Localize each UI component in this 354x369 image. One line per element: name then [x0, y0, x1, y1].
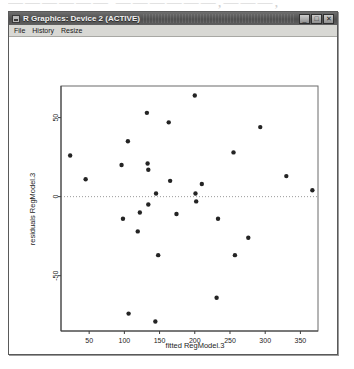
- maximize-icon: □: [312, 15, 321, 23]
- data-point: [200, 182, 204, 186]
- data-point: [174, 212, 178, 216]
- data-point: [145, 161, 149, 165]
- y-axis-title: residuals RegModel.3: [28, 173, 37, 246]
- maximize-button[interactable]: □: [311, 14, 322, 24]
- data-point: [168, 179, 172, 183]
- menubar: File History Resize: [9, 25, 337, 37]
- y-axis: 500-50: [52, 86, 61, 331]
- data-point: [231, 150, 235, 154]
- window-title: R Graphics: Device 2 (ACTIVE): [23, 14, 140, 23]
- data-point: [193, 191, 197, 195]
- data-point: [246, 236, 250, 240]
- menu-file[interactable]: File: [12, 25, 30, 36]
- plot-border: [61, 86, 318, 331]
- x-tick-label: 350: [295, 337, 307, 344]
- data-point: [194, 199, 198, 203]
- plot-frame: [61, 86, 318, 331]
- data-point: [121, 217, 125, 221]
- r-graphics-window: R Graphics: Device 2 (ACTIVE) _ □ ✕ File…: [8, 11, 338, 355]
- window-titlebar[interactable]: R Graphics: Device 2 (ACTIVE) _ □ ✕: [9, 12, 337, 25]
- data-point: [193, 93, 197, 97]
- x-tick-label: 250: [224, 337, 236, 344]
- x-axis-title: fitted RegModel.3: [166, 341, 225, 350]
- data-point: [146, 168, 150, 172]
- data-point: [146, 202, 150, 206]
- data-point: [284, 174, 288, 178]
- minimize-icon: _: [300, 15, 309, 23]
- data-point: [83, 177, 87, 181]
- y-tick-label: -50: [52, 271, 59, 281]
- x-tick-label: 100: [119, 337, 131, 344]
- data-point: [138, 210, 142, 214]
- data-point: [167, 120, 171, 124]
- data-point: [145, 111, 149, 115]
- titlebar-filler: [143, 14, 296, 23]
- data-point: [119, 163, 123, 167]
- data-point: [258, 125, 262, 129]
- data-point: [233, 253, 237, 257]
- close-icon: ✕: [324, 15, 333, 23]
- data-point: [68, 153, 72, 157]
- close-button[interactable]: ✕: [323, 14, 334, 24]
- data-point: [216, 217, 220, 221]
- x-tick-label: 300: [259, 337, 271, 344]
- data-point: [153, 319, 157, 323]
- x-tick-label: 50: [85, 337, 93, 344]
- data-point: [126, 311, 130, 315]
- data-point: [214, 296, 218, 300]
- residuals-vs-fitted-scatter: 50100150200250300350 500-50 fitted RegMo…: [9, 37, 337, 354]
- page-bleed-text: —————— ——————,———,: [8, 0, 354, 10]
- data-point: [126, 139, 130, 143]
- minimize-button[interactable]: _: [299, 14, 310, 24]
- y-tick-label: 0: [52, 195, 59, 199]
- data-point: [310, 188, 314, 192]
- data-point: [154, 191, 158, 195]
- window-controls: _ □ ✕: [299, 14, 335, 24]
- menu-history[interactable]: History: [30, 25, 59, 36]
- data-point: [156, 253, 160, 257]
- x-tick-label: 150: [154, 337, 166, 344]
- r-graphics-icon: [12, 15, 20, 23]
- data-point: [136, 229, 140, 233]
- menu-resize[interactable]: Resize: [59, 25, 87, 36]
- y-tick-label: 50: [52, 114, 59, 122]
- data-points: [68, 93, 315, 323]
- plot-canvas: 50100150200250300350 500-50 fitted RegMo…: [9, 37, 337, 354]
